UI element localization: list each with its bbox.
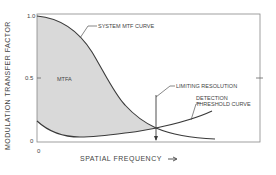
- arrow-right-icon: [168, 157, 177, 161]
- y-axis-title: MODULATION TRANSFER FACTOR: [4, 21, 11, 150]
- y-tick-label-0: 0: [30, 138, 34, 144]
- mtfa-label: MTFA: [57, 76, 72, 82]
- mtf-chart: 1.0 0.5 0 0 MTFA SYSTEM MTF CURVE LIMITI…: [0, 0, 276, 175]
- y-tick-label-0.5: 0.5: [25, 75, 34, 81]
- x-tick-label-0: 0: [37, 148, 41, 154]
- leader-system-mtf: [80, 26, 97, 38]
- leader-limiting-resolution: [156, 86, 175, 97]
- x-axis-title: SPATIAL FREQUENCY: [80, 155, 162, 163]
- y-tick-label-1.0: 1.0: [27, 13, 36, 19]
- system-mtf-label: SYSTEM MTF CURVE: [98, 23, 154, 29]
- detection-label-line2: THRESHOLD CURVE: [196, 101, 251, 107]
- limiting-resolution-label: LIMITING RESOLUTION: [176, 83, 237, 89]
- mtfa-shaded-area: [37, 16, 156, 137]
- arrow-down-icon: [154, 136, 158, 141]
